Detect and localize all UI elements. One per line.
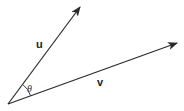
vector-u-line <box>8 7 80 104</box>
vector-angle-diagram: u v θ <box>0 0 184 111</box>
vector-u-label: u <box>36 38 43 50</box>
angle-theta-label: θ <box>27 83 32 94</box>
vector-v-line <box>8 43 177 104</box>
vector-v-label: v <box>97 76 104 88</box>
